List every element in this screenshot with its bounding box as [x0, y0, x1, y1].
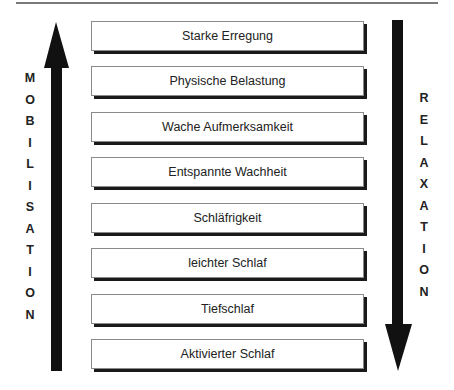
state-label: Entspannte Wachheit [168, 165, 286, 179]
state-box-entspannte-wachheit: Entspannte Wachheit [91, 157, 364, 187]
letter: X [416, 177, 432, 191]
state-label: Tiefschlaf [201, 302, 254, 316]
state-label: leichter Schlaf [188, 256, 267, 270]
letter: T [22, 243, 38, 257]
state-label: Physische Belastung [169, 74, 285, 88]
letter: M [22, 71, 38, 85]
letter: I [416, 242, 432, 256]
mobilisation-up-arrow-icon [44, 22, 69, 371]
relaxation-down-arrow-icon [385, 20, 412, 371]
letter: O [22, 286, 38, 300]
letter: A [416, 156, 432, 170]
arrows [0, 0, 454, 390]
letter: O [416, 263, 432, 277]
letter: E [416, 113, 432, 127]
state-box-aktivierter-schlaf: Aktivierter Schlaf [91, 339, 364, 369]
state-box-starke-erregung: Starke Erregung [91, 21, 364, 51]
state-label: Schläfrigkeit [193, 211, 261, 225]
letter: N [22, 308, 38, 322]
state-box-leichter-schlaf: leichter Schlaf [91, 248, 364, 278]
state-label: Starke Erregung [182, 29, 273, 43]
letter: I [22, 265, 38, 279]
letter: L [22, 157, 38, 171]
letter: T [416, 220, 432, 234]
letter: A [416, 199, 432, 213]
letter: I [22, 179, 38, 193]
state-label: Aktivierter Schlaf [181, 347, 275, 361]
letter: N [416, 285, 432, 299]
letter: A [22, 222, 38, 236]
state-label: Wache Aufmerksamkeit [162, 120, 293, 134]
letter: B [22, 114, 38, 128]
letter: O [22, 93, 38, 107]
state-box-tiefschlaf: Tiefschlaf [91, 294, 364, 324]
state-box-schlaefrigkeit: Schläfrigkeit [91, 203, 364, 233]
state-box-wache-aufmerksamkeit: Wache Aufmerksamkeit [91, 112, 364, 142]
letter: S [22, 200, 38, 214]
state-box-physische-belastung: Physische Belastung [91, 66, 364, 96]
letter: I [22, 136, 38, 150]
letter: R [416, 91, 432, 105]
letter: L [416, 134, 432, 148]
